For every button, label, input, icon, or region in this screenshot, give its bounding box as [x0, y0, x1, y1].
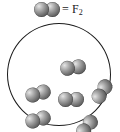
fluorine-atom-sphere: [34, 2, 49, 17]
legend: = F2: [34, 1, 94, 21]
f2-molecule: [59, 58, 87, 76]
f2-molecule: [73, 112, 101, 132]
legend-formula-subscript: 2: [79, 8, 83, 17]
legend-equals-sign: =: [62, 1, 69, 17]
f2-molecule: [23, 109, 52, 131]
f2-molecule: [58, 92, 84, 107]
legend-formula: F2: [72, 1, 83, 19]
f2-molecule: [89, 77, 115, 107]
f2-molecule: [23, 83, 52, 105]
reaction-vessel-circle: [7, 23, 111, 126]
f2-molecule-icon: [34, 2, 60, 17]
figure-root: = F2: [0, 0, 120, 132]
fluorine-atom-sphere: [58, 92, 73, 107]
legend-formula-symbol: F: [72, 2, 79, 16]
